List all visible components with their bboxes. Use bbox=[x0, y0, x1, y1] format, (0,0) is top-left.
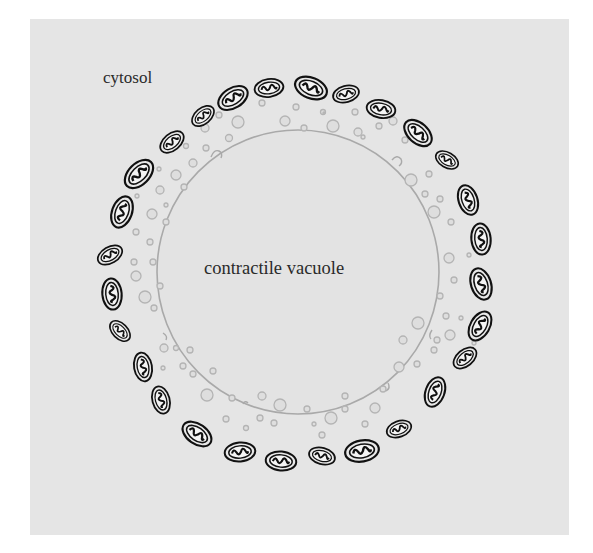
mitochondrion bbox=[106, 317, 134, 345]
mitochondrion bbox=[399, 115, 436, 151]
contractile-vacuole-label: contractile vacuole bbox=[204, 258, 344, 279]
mitochondrion bbox=[214, 81, 252, 115]
mitochondrion bbox=[421, 374, 449, 409]
mitochondrion bbox=[331, 83, 361, 106]
mitochondrion bbox=[178, 417, 216, 452]
mitochondrion bbox=[132, 351, 155, 383]
mitochondrion bbox=[450, 343, 481, 373]
mitochondrion bbox=[343, 438, 380, 465]
mitochondrion bbox=[384, 417, 413, 441]
mitochondrion bbox=[467, 266, 496, 303]
mitochondrion bbox=[292, 72, 331, 104]
mitochondrion bbox=[454, 183, 481, 218]
mitochondrion bbox=[94, 241, 125, 268]
mitochondrion bbox=[265, 450, 297, 471]
mitochondrion bbox=[107, 193, 137, 230]
mitochondrion bbox=[149, 384, 173, 415]
cytosol-label: cytosol bbox=[103, 68, 152, 88]
mitochondrion bbox=[433, 147, 462, 172]
mitochondrion bbox=[188, 102, 218, 130]
mitochondrion bbox=[307, 445, 337, 468]
mitochondrion bbox=[470, 223, 492, 256]
mitochondrion bbox=[224, 441, 256, 462]
mitochondrion bbox=[464, 308, 496, 345]
mitochondrion bbox=[120, 155, 159, 194]
mitochondrion bbox=[156, 127, 188, 157]
mitochondrion bbox=[253, 77, 284, 99]
mitochondrion bbox=[365, 98, 397, 121]
mitochondrion bbox=[101, 278, 123, 311]
